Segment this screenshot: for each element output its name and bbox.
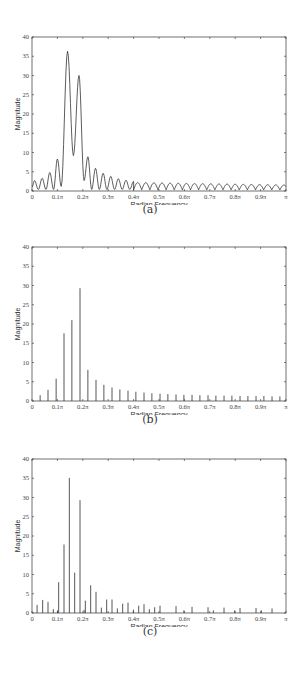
plot-area: [40, 288, 280, 401]
x-tick-label: 0.8π: [229, 615, 241, 622]
x-tick-label: 0.3π: [102, 193, 114, 200]
x-tick-label: 0.7π: [204, 193, 216, 200]
plot-area: [37, 478, 272, 613]
x-tick-label: 0.2π: [77, 403, 89, 410]
x-tick-label: 0.5π: [153, 403, 165, 410]
x-tick-label: π: [284, 615, 288, 622]
plot-c: 051015202530354000.1π0.2π0.3π0.4π0.5π0.6…: [0, 422, 300, 627]
y-tick-label: 40: [23, 455, 30, 462]
y-tick-label: 0: [26, 609, 29, 616]
y-tick-label: 30: [23, 72, 30, 79]
y-tick-label: 5: [26, 168, 29, 175]
y-axis-title: Magnitude: [14, 520, 22, 553]
x-tick-label: 0: [30, 193, 33, 200]
y-tick-label: 40: [23, 243, 30, 250]
y-tick-label: 20: [23, 110, 30, 117]
x-tick-label: 0.4π: [128, 615, 140, 622]
x-tick-label: 0.5π: [153, 615, 165, 622]
x-tick-label: π: [284, 403, 288, 410]
x-tick-label: 0.3π: [102, 403, 114, 410]
x-tick-label: 0.4π: [128, 403, 140, 410]
x-tick-label: 0.5π: [153, 193, 165, 200]
y-tick-label: 0: [26, 187, 29, 194]
magnitude-curve: [32, 51, 286, 190]
y-tick-label: 15: [23, 129, 30, 136]
plot-area: [32, 51, 286, 190]
x-tick-label: 0.2π: [77, 615, 89, 622]
y-tick-label: 5: [26, 378, 29, 385]
caption-c: (c): [0, 625, 300, 638]
chart-panel-c: 051015202530354000.1π0.2π0.3π0.4π0.5π0.6…: [0, 422, 300, 647]
y-tick-label: 35: [23, 262, 30, 269]
y-tick-label: 30: [23, 494, 30, 501]
y-tick-label: 40: [23, 33, 30, 40]
y-tick-label: 20: [23, 532, 30, 539]
y-tick-label: 15: [23, 339, 30, 346]
y-axis-title: Magnitude: [14, 308, 22, 341]
x-tick-label: 0.4π: [128, 193, 140, 200]
x-tick-label: 0: [30, 403, 33, 410]
x-tick-label: 0.9π: [255, 193, 267, 200]
y-tick-label: 25: [23, 513, 30, 520]
y-axis-title: Magnitude: [14, 98, 22, 131]
plot-frame: [32, 247, 286, 401]
x-tick-label: 0.7π: [204, 403, 216, 410]
x-tick-label: 0.6π: [179, 403, 191, 410]
x-tick-label: 0.7π: [204, 615, 216, 622]
x-tick-label: 0: [30, 615, 33, 622]
x-tick-label: 0.8π: [229, 403, 241, 410]
plot-b: 051015202530354000.1π0.2π0.3π0.4π0.5π0.6…: [0, 210, 300, 415]
x-tick-label: 0.3π: [102, 615, 114, 622]
y-tick-label: 10: [23, 149, 30, 156]
plot-frame: [32, 37, 286, 191]
x-tick-label: 0.1π: [52, 615, 64, 622]
y-tick-label: 10: [23, 359, 30, 366]
y-tick-label: 20: [23, 320, 30, 327]
x-tick-label: 0.1π: [52, 193, 64, 200]
x-tick-label: 0.2π: [77, 193, 89, 200]
y-tick-label: 35: [23, 474, 30, 481]
x-tick-label: 0.6π: [179, 193, 191, 200]
chart-panel-b: 051015202530354000.1π0.2π0.3π0.4π0.5π0.6…: [0, 210, 300, 435]
y-tick-label: 10: [23, 571, 30, 578]
y-tick-label: 30: [23, 282, 30, 289]
x-tick-label: 0.8π: [229, 193, 241, 200]
plot-frame: [32, 459, 286, 613]
y-tick-label: 5: [26, 590, 29, 597]
x-tick-label: 0.6π: [179, 615, 191, 622]
y-tick-label: 25: [23, 91, 30, 98]
x-tick-label: 0.1π: [52, 403, 64, 410]
x-tick-label: 0.9π: [255, 403, 267, 410]
y-tick-label: 0: [26, 397, 29, 404]
plot-a: 051015202530354000.1π0.2π0.3π0.4π0.5π0.6…: [0, 0, 300, 205]
chart-panel-a: 051015202530354000.1π0.2π0.3π0.4π0.5π0.6…: [0, 0, 300, 225]
x-tick-label: π: [284, 193, 288, 200]
y-tick-label: 35: [23, 52, 30, 59]
y-tick-label: 25: [23, 301, 30, 308]
y-tick-label: 15: [23, 551, 30, 558]
x-tick-label: 0.9π: [255, 615, 267, 622]
